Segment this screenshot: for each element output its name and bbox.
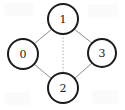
node-3-label: 3 — [99, 47, 106, 60]
node-2[interactable]: 2 — [48, 73, 78, 103]
node-3[interactable]: 3 — [88, 39, 116, 67]
graph-canvas: 1 0 3 2 — [0, 0, 125, 110]
node-1-label: 1 — [60, 13, 67, 26]
node-0-label: 0 — [20, 48, 27, 61]
graph-diagram: 1 0 3 2 — [0, 0, 125, 110]
node-2-label: 2 — [60, 82, 67, 95]
node-1[interactable]: 1 — [48, 4, 78, 34]
node-0[interactable]: 0 — [8, 39, 38, 69]
